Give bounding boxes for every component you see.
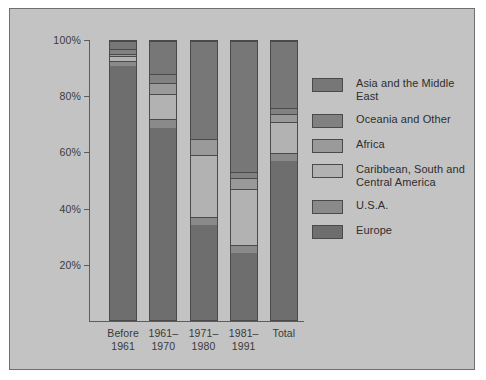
bar-segment[interactable] (231, 245, 257, 253)
y-tick-mark (84, 96, 89, 97)
bar-segment[interactable] (271, 114, 297, 122)
bar-segment[interactable] (231, 178, 257, 189)
bar-segment[interactable] (271, 161, 297, 320)
x-axis-label: 1971– 1980 (181, 327, 227, 352)
bar-segment[interactable] (191, 41, 217, 139)
bar-segment[interactable] (150, 83, 176, 94)
bar-segment[interactable] (191, 155, 217, 216)
bar-segment[interactable] (110, 41, 136, 49)
stacked-bar[interactable] (230, 40, 258, 321)
bar-segment[interactable] (191, 225, 217, 320)
stacked-bar[interactable] (270, 40, 298, 321)
legend-swatch (312, 139, 343, 153)
y-axis-line (89, 40, 90, 321)
bar-segment[interactable] (150, 41, 176, 74)
legend-label: U.S.A. (356, 199, 388, 212)
bar-segment[interactable] (271, 153, 297, 161)
legend-label: Africa (356, 138, 385, 151)
figure-canvas: 20%40%60%80%100% Before 19611961– 197019… (0, 0, 486, 380)
chart-legend: Asia and the Middle EastOceania and Othe… (312, 77, 472, 249)
y-tick-label: 60% (59, 146, 81, 158)
plot-area: 20%40%60%80%100% Before 19611961– 197019… (89, 40, 304, 321)
legend-swatch (312, 78, 343, 92)
bar-segment[interactable] (231, 41, 257, 172)
x-axis-label: 1961– 1970 (140, 327, 186, 352)
bar-segment[interactable] (271, 41, 297, 108)
bar-segment[interactable] (231, 253, 257, 320)
bar-segment[interactable] (150, 94, 176, 119)
stacked-bar[interactable] (149, 40, 177, 321)
stacked-bar[interactable] (190, 40, 218, 321)
bar-segment[interactable] (191, 217, 217, 225)
legend-swatch (312, 200, 343, 214)
x-axis-label: Before 1961 (100, 327, 146, 352)
legend-swatch (312, 164, 343, 178)
bar-segment[interactable] (150, 119, 176, 127)
bar-segment[interactable] (150, 128, 176, 321)
legend-item[interactable]: Caribbean, South and Central America (312, 163, 472, 189)
legend-item[interactable]: U.S.A. (312, 199, 472, 214)
bar-segment[interactable] (110, 66, 136, 320)
bar-segment[interactable] (271, 122, 297, 153)
legend-swatch (312, 225, 343, 239)
bar-segment[interactable] (150, 74, 176, 82)
bar-segment[interactable] (231, 189, 257, 245)
legend-label: Caribbean, South and Central America (356, 163, 465, 189)
y-tick-label: 80% (59, 90, 81, 102)
y-tick-mark (84, 40, 89, 41)
legend-label: Oceania and Other (356, 113, 451, 126)
y-tick-label: 40% (59, 203, 81, 215)
legend-item[interactable]: Europe (312, 224, 472, 239)
x-axis-line (89, 321, 304, 322)
x-axis-label: 1981– 1991 (221, 327, 267, 352)
chart-panel: 20%40%60%80%100% Before 19611961– 197019… (9, 8, 475, 370)
y-tick-label: 20% (59, 259, 81, 271)
legend-label: Europe (356, 224, 392, 237)
legend-label: Asia and the Middle East (356, 77, 472, 103)
x-axis-label: Total (261, 327, 307, 340)
legend-swatch (312, 114, 343, 128)
y-tick-mark (84, 209, 89, 210)
stacked-bar[interactable] (109, 40, 137, 321)
legend-item[interactable]: Asia and the Middle East (312, 77, 472, 103)
y-tick-label: 100% (53, 34, 81, 46)
legend-item[interactable]: Oceania and Other (312, 113, 472, 128)
y-tick-mark (84, 152, 89, 153)
legend-item[interactable]: Africa (312, 138, 472, 153)
y-tick-mark (84, 265, 89, 266)
bar-segment[interactable] (191, 139, 217, 156)
